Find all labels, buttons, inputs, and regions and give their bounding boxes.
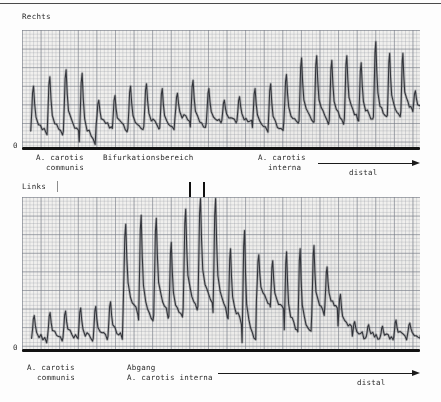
panel-label-links: Links (22, 182, 46, 191)
annotation-links-abgang-line2: A. carotis interna (127, 373, 213, 383)
direction-arrow-rechts (318, 160, 420, 168)
page-top-rule (0, 3, 441, 4)
direction-arrow-links (218, 370, 420, 378)
clipped-peak-spike-2 (203, 182, 205, 198)
annotation-links-acc-line1: A. carotis (27, 363, 75, 373)
zero-label-links: 0 (13, 343, 18, 352)
waveform-trace-rechts (22, 30, 420, 147)
doppler-panel-rechts (22, 30, 420, 147)
panel-label-rechts: Rechts (22, 12, 51, 21)
scanned-page: Rechts 0 A. carotis communis Bifurkation… (0, 0, 441, 402)
zero-baseline-rechts (22, 147, 420, 150)
annotation-links-acc-line2: communis (37, 373, 75, 383)
annotation-rechts-distal: distal (349, 168, 378, 178)
annotation-rechts-aci-line2: interna (268, 163, 301, 173)
zero-label-rechts: 0 (13, 141, 18, 150)
annotation-links-distal: distal (357, 378, 386, 388)
annotation-rechts-bifurkation: Bifurkationsbereich (103, 153, 194, 163)
annotation-rechts-acc-line1: A. carotis (36, 153, 84, 163)
waveform-trace-links (22, 197, 420, 349)
zero-baseline-links (22, 349, 420, 352)
annotation-rechts-aci-line1: A. carotis (258, 153, 306, 163)
links-tick-mark (57, 181, 58, 192)
doppler-panel-links (22, 197, 420, 349)
clipped-peak-spike-1 (189, 182, 191, 198)
annotation-rechts-acc-line2: communis (46, 163, 84, 173)
annotation-links-abgang-line1: Abgang (127, 363, 156, 373)
